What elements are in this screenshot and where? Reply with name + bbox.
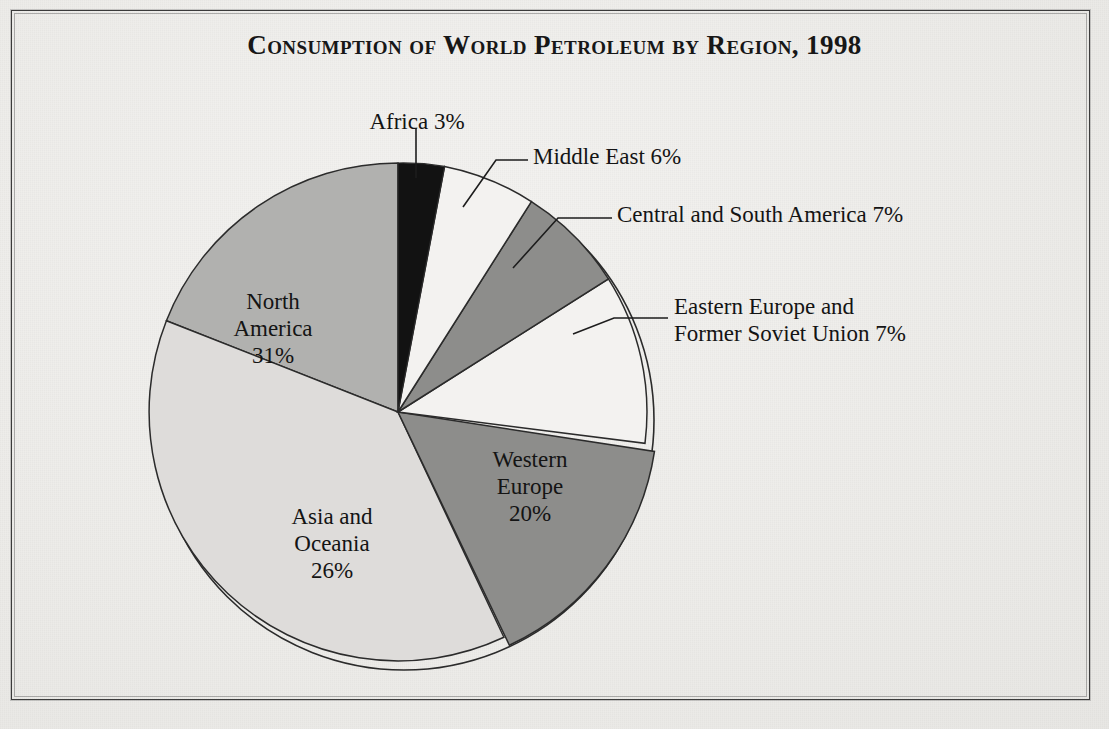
slice-label-asia-oceania: Asia and Oceania 26% bbox=[252, 503, 412, 584]
slice-label-africa: Africa 3% bbox=[352, 108, 482, 135]
slice-label-middle-east: Middle East 6% bbox=[533, 143, 681, 170]
slice-label-north-america-line1: North bbox=[193, 288, 353, 315]
slice-label-western-europe-line2: Europe bbox=[455, 473, 605, 500]
slice-label-asia-oceania-line1: Asia and bbox=[252, 503, 412, 530]
slice-label-north-america: North America 31% bbox=[193, 288, 353, 369]
slice-label-asia-oceania-line3: 26% bbox=[252, 557, 412, 584]
slice-label-western-europe-line3: 20% bbox=[455, 500, 605, 527]
slice-label-north-america-line2: America bbox=[193, 315, 353, 342]
slice-label-asia-oceania-line2: Oceania bbox=[252, 530, 412, 557]
slice-label-central-south-america: Central and South America 7% bbox=[617, 201, 903, 228]
pie-chart-svg bbox=[0, 0, 1109, 729]
slice-label-eastern-europe-line1: Eastern Europe and bbox=[674, 293, 906, 320]
slice-label-north-america-line3: 31% bbox=[193, 342, 353, 369]
slice-label-eastern-europe: Eastern Europe and Former Soviet Union 7… bbox=[674, 293, 906, 347]
pie-chart-stage bbox=[0, 0, 1109, 729]
slice-label-eastern-europe-line2: Former Soviet Union 7% bbox=[674, 320, 906, 347]
slice-label-western-europe-line1: Western bbox=[455, 446, 605, 473]
slice-label-western-europe: Western Europe 20% bbox=[455, 446, 605, 527]
